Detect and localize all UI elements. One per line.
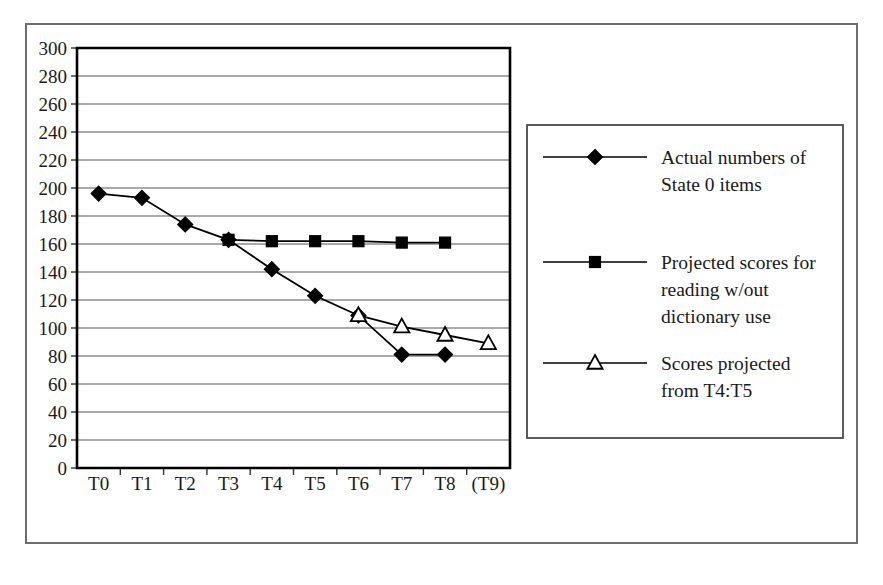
legend-label: from T4:T5 xyxy=(661,380,752,401)
plot-area-border xyxy=(77,48,510,468)
y-axis-tick-label: 300 xyxy=(39,38,68,59)
y-axis-tick-label: 220 xyxy=(39,150,68,171)
data-point-diamond-marker xyxy=(308,288,323,303)
y-axis-tick-label: 180 xyxy=(39,206,68,227)
y-axis-tick-label: 40 xyxy=(48,402,67,423)
chart-legend: Actual numbers ofState 0 itemsProjected … xyxy=(527,125,843,438)
line-chart: 0204060801001201401601802002202402602803… xyxy=(0,0,883,585)
data-series-group xyxy=(91,186,496,362)
y-axis-tick-label: 0 xyxy=(58,458,68,479)
data-point-square-marker xyxy=(440,237,451,248)
x-axis-tick-label: T8 xyxy=(434,473,455,494)
x-axis-tick-labels: T0T1T2T3T4T5T6T7T8(T9) xyxy=(88,473,505,495)
legend-label: Projected scores for xyxy=(661,252,816,273)
legend-label: Scores projected xyxy=(661,353,791,374)
x-axis-tick-label: T5 xyxy=(305,473,326,494)
data-point-diamond-marker xyxy=(178,217,193,232)
data-point-square-marker xyxy=(590,257,601,268)
y-axis-tick-label: 100 xyxy=(39,318,68,339)
x-axis-tick-label: T2 xyxy=(175,473,196,494)
y-axis-tick-label: 200 xyxy=(39,178,68,199)
data-point-square-marker xyxy=(353,236,364,247)
data-point-diamond-marker xyxy=(264,262,279,277)
series-line xyxy=(229,240,445,243)
figure-container: 0204060801001201401601802002202402602803… xyxy=(0,0,883,585)
x-axis-tick-label: T0 xyxy=(88,473,109,494)
x-axis-tick-label: T1 xyxy=(131,473,152,494)
legend-label: State 0 items xyxy=(661,174,762,195)
data-point-square-marker xyxy=(223,234,234,245)
x-axis-tick-label: T4 xyxy=(261,473,283,494)
x-axis-tick-label: T6 xyxy=(348,473,369,494)
y-axis-tick-label: 240 xyxy=(39,122,68,143)
gridlines-group xyxy=(71,48,510,468)
data-point-square-marker xyxy=(310,236,321,247)
legend-label: dictionary use xyxy=(661,306,771,327)
series-1 xyxy=(223,234,450,248)
y-axis-tick-label: 120 xyxy=(39,290,68,311)
data-point-square-marker xyxy=(396,237,407,248)
data-point-diamond-marker xyxy=(438,347,453,362)
y-axis-tick-label: 140 xyxy=(39,262,68,283)
y-axis-tick-label: 260 xyxy=(39,94,68,115)
plot-frame xyxy=(77,48,510,468)
y-axis-tick-label: 20 xyxy=(48,430,67,451)
series-line xyxy=(358,315,488,343)
y-axis-tick-label: 80 xyxy=(48,346,67,367)
x-axis-tick-label: T7 xyxy=(391,473,412,494)
data-point-diamond-marker xyxy=(134,190,149,205)
series-0 xyxy=(91,186,452,362)
y-axis-tick-label: 280 xyxy=(39,66,68,87)
data-point-square-marker xyxy=(266,236,277,247)
y-axis-tick-labels: 0204060801001201401601802002202402602803… xyxy=(39,38,68,479)
x-axis-tick-label: (T9) xyxy=(471,473,505,495)
legend-label: reading w/out xyxy=(661,279,769,300)
x-axis-tick-label: T3 xyxy=(218,473,239,494)
y-axis-tick-label: 160 xyxy=(39,234,68,255)
legend-label: Actual numbers of xyxy=(661,147,807,168)
y-axis-tick-label: 60 xyxy=(48,374,67,395)
